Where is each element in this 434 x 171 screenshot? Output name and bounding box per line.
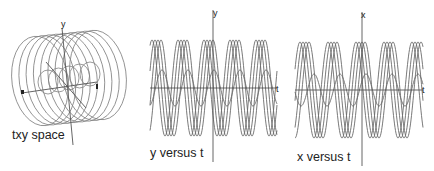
figure-canvas: y txy space y t y versus t x t x versus …: [0, 0, 434, 171]
y-axis-label: y: [213, 8, 218, 18]
t-axis-label: t: [422, 85, 425, 95]
y-axis-label-3d: y: [61, 19, 66, 29]
t-axis-3d: [22, 82, 97, 93]
helix-rings: [6, 27, 132, 130]
y-versus-t-panel: y t y versus t: [150, 8, 279, 162]
txy-caption: txy space: [12, 128, 65, 142]
x-axis-label: x: [361, 10, 366, 20]
axis-endpoint-marker: [21, 90, 24, 94]
t-axis-label: t: [276, 84, 279, 94]
txy-space-panel: y txy space: [6, 19, 132, 145]
x-versus-t-panel: x t x versus t: [295, 10, 425, 166]
t-arrow-marker: [96, 84, 98, 89]
y-versus-t-caption: y versus t: [150, 146, 204, 160]
x-versus-t-caption: x versus t: [297, 150, 351, 164]
